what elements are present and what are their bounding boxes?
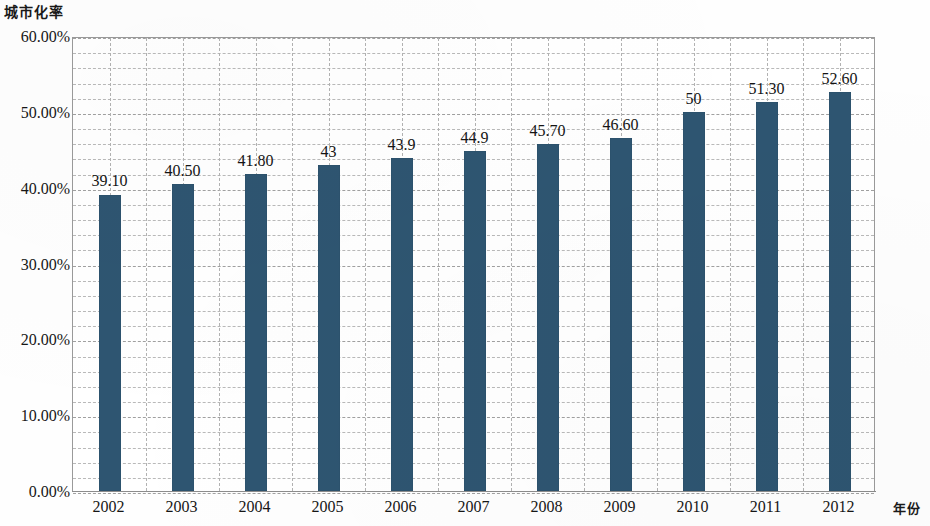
bar-value-label: 51.30 <box>727 80 807 98</box>
y-axis-tick-label: 50.00% <box>4 104 70 122</box>
gridline-vertical <box>767 38 768 491</box>
gridline-vertical <box>402 38 403 491</box>
x-axis-tick-label: 2004 <box>220 498 290 516</box>
x-axis-tick-labels: 2002200320042005200620072008200920102011… <box>72 498 875 524</box>
bar <box>610 138 632 491</box>
chart-figure: 城市化率 年份 60.00%50.00%40.00%30.00%20.00%10… <box>0 0 930 526</box>
gridline-vertical <box>475 38 476 491</box>
y-axis-tick-label: 40.00% <box>4 180 70 198</box>
y-axis-tick-label: 10.00% <box>4 407 70 425</box>
x-axis-tick-label: 2006 <box>366 498 436 516</box>
x-axis-tick-label: 2002 <box>74 498 144 516</box>
gridline-minor <box>73 250 874 251</box>
gridline-minor <box>73 205 874 206</box>
bar-labels-layer: 39.1040.5041.804343.944.945.7046.605051.… <box>73 38 874 491</box>
gridline-minor <box>73 463 874 464</box>
gridline-minor <box>73 235 874 236</box>
gridline-minor <box>73 281 874 282</box>
x-axis-tick-label: 2010 <box>658 498 728 516</box>
bar-value-label: 45.70 <box>508 122 588 140</box>
bar <box>391 158 413 491</box>
horizontal-gridlines <box>73 38 874 491</box>
bar <box>464 151 486 491</box>
gridline-vertical <box>292 38 293 491</box>
gridline-vertical <box>219 38 220 491</box>
gridline-minor <box>73 129 874 130</box>
gridline-major <box>73 38 874 39</box>
gridline-minor <box>73 144 874 145</box>
gridline-minor <box>73 84 874 85</box>
gridline-vertical <box>657 38 658 491</box>
gridline-vertical <box>256 38 257 491</box>
gridline-minor <box>73 53 874 54</box>
bar <box>245 174 267 491</box>
gridline-major <box>73 341 874 342</box>
x-axis-tick-label: 2005 <box>293 498 363 516</box>
gridline-vertical <box>840 38 841 491</box>
y-axis-tick-label: 20.00% <box>4 331 70 349</box>
gridline-major <box>73 417 874 418</box>
bar-value-label: 43 <box>289 143 369 161</box>
gridline-major <box>73 114 874 115</box>
gridline-minor <box>73 99 874 100</box>
gridline-minor <box>73 68 874 69</box>
bar <box>829 92 851 491</box>
y-axis-title: 城市化率 <box>4 1 64 21</box>
bar-value-label: 52.60 <box>800 70 880 88</box>
gridline-vertical <box>438 38 439 491</box>
bar-value-label: 46.60 <box>581 116 661 134</box>
gridline-minor <box>73 311 874 312</box>
y-axis-tick-label: 60.00% <box>4 28 70 46</box>
gridline-minor <box>73 175 874 176</box>
bar <box>537 144 559 491</box>
gridline-minor <box>73 357 874 358</box>
gridline-vertical <box>730 38 731 491</box>
gridline-vertical <box>329 38 330 491</box>
gridline-minor <box>73 159 874 160</box>
y-axis-tick-labels: 60.00%50.00%40.00%30.00%20.00%10.00%0.00… <box>0 37 70 492</box>
bar-value-label: 44.9 <box>435 129 515 147</box>
gridline-vertical <box>365 38 366 491</box>
bars-layer <box>73 38 874 491</box>
gridline-vertical <box>183 38 184 491</box>
x-axis-tick-label: 2003 <box>147 498 217 516</box>
bar <box>756 102 778 491</box>
y-axis-tick-label: 0.00% <box>4 483 70 501</box>
gridline-vertical <box>584 38 585 491</box>
x-axis-tick-label: 2011 <box>731 498 801 516</box>
gridline-minor <box>73 326 874 327</box>
bar <box>99 195 121 492</box>
gridline-minor <box>73 402 874 403</box>
vertical-gridlines <box>73 38 874 491</box>
bar-value-label: 40.50 <box>143 162 223 180</box>
x-axis-tick-label: 2012 <box>804 498 874 516</box>
gridline-minor <box>73 448 874 449</box>
gridline-major <box>73 266 874 267</box>
x-axis-tick-label: 2008 <box>512 498 582 516</box>
gridline-minor <box>73 296 874 297</box>
gridline-minor <box>73 478 874 479</box>
gridline-vertical <box>548 38 549 491</box>
bar-value-label: 41.80 <box>216 152 296 170</box>
x-axis-title: 年份 <box>893 498 921 517</box>
gridline-major <box>73 190 874 191</box>
bar <box>172 184 194 491</box>
bar-value-label: 39.10 <box>70 172 150 190</box>
bar-value-label: 43.9 <box>362 136 442 154</box>
gridline-major <box>73 493 874 494</box>
x-axis-tick-label: 2007 <box>439 498 509 516</box>
bar <box>318 165 340 491</box>
bar <box>683 112 705 491</box>
x-axis-tick-label: 2009 <box>585 498 655 516</box>
x-axis-baseline <box>72 491 876 492</box>
y-axis-tick-label: 30.00% <box>4 256 70 274</box>
plot-area: 39.1040.5041.804343.944.945.7046.605051.… <box>72 37 875 492</box>
bar-value-label: 50 <box>654 90 734 108</box>
gridline-minor <box>73 220 874 221</box>
gridline-vertical <box>110 38 111 491</box>
gridline-vertical <box>694 38 695 491</box>
gridline-minor <box>73 372 874 373</box>
gridline-vertical <box>146 38 147 491</box>
gridline-vertical <box>511 38 512 491</box>
gridline-minor <box>73 432 874 433</box>
